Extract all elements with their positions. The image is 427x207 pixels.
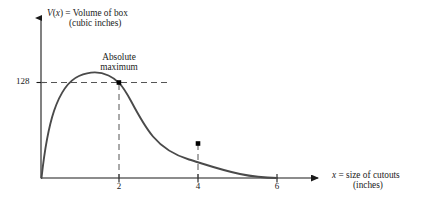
- absolute-maximum-annotation: Absolute maximum: [100, 52, 138, 73]
- y-axis-label: V(x) = Volume of box (cubic inches): [47, 8, 128, 29]
- annotation-line2: maximum: [100, 62, 138, 72]
- x-axis-label: x = size of cutouts (inches): [332, 170, 400, 191]
- x-tick-label-4: 4: [196, 181, 201, 191]
- x-tick-label-2: 2: [117, 181, 122, 191]
- y-axis-label-line2: (cubic inches): [47, 18, 128, 28]
- absolute-maximum-point: [117, 80, 122, 85]
- y-tick-label-128: 128: [16, 76, 30, 86]
- inflection-point: [196, 141, 201, 146]
- x-axis-label-line2: (inches): [332, 180, 400, 190]
- x-axis-label-line1: x = size of cutouts: [332, 170, 400, 180]
- volume-of-box-chart: V(x) = Volume of box (cubic inches) x = …: [0, 0, 427, 207]
- volume-curve: [42, 72, 278, 178]
- x-tick-label-6: 6: [275, 181, 280, 191]
- annotation-line1: Absolute: [102, 52, 136, 62]
- y-axis-label-line1: V(x) = Volume of box: [47, 8, 128, 18]
